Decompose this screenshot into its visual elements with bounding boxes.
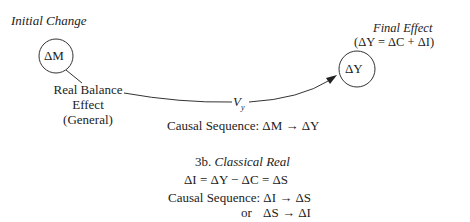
section-3b-alt-sequence: or ΔS → ΔI: [241, 205, 311, 221]
section-3b-causal-label: Causal Sequence:: [168, 190, 260, 205]
mechanism-line1: Real Balance: [48, 82, 128, 97]
mechanism-line3: (General): [48, 112, 128, 127]
delta-m-node-label: ΔM: [44, 48, 64, 64]
velocity-sub: y: [241, 103, 245, 112]
delta-m-text: ΔM: [44, 48, 64, 63]
causal-sequence-label: Causal Sequence:: [167, 118, 259, 133]
curve-left: [124, 93, 232, 102]
section-title: Classical Real: [215, 154, 290, 169]
section-3b-heading: 3b. Classical Real: [195, 154, 290, 170]
final-effect-title: Final Effect: [373, 21, 432, 36]
section-3b-equation: ΔI = ΔY − ΔC = ΔS: [184, 172, 288, 188]
curve-right: [249, 80, 330, 102]
mechanism-line2: Effect: [48, 97, 128, 112]
section-3b-sequence2: ΔS → ΔI: [263, 205, 311, 220]
velocity-main: V: [233, 94, 241, 109]
causal-sequence-value: ΔM → ΔY: [262, 118, 319, 133]
final-effect-equation: (ΔY = ΔC + ΔI): [354, 35, 434, 50]
initial-change-title: Initial Change: [11, 13, 86, 29]
causal-sequence-main: Causal Sequence: ΔM → ΔY: [167, 118, 319, 134]
section-number: 3b.: [195, 154, 211, 169]
velocity-label: Vy: [233, 94, 245, 112]
section-3b-causal-sequence: Causal Sequence: ΔI → ΔS: [168, 190, 311, 206]
arrowhead-icon: [326, 75, 337, 84]
or-label: or: [241, 205, 252, 220]
delta-y-node-label: ΔY: [345, 61, 363, 77]
section-3b-sequence1: ΔI → ΔS: [263, 190, 311, 205]
real-balance-effect-label: Real Balance Effect (General): [48, 82, 128, 127]
